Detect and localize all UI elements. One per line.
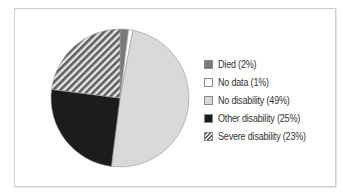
legend-label: Severe disability (23%): [218, 131, 306, 142]
legend-label: No disability (49%): [218, 95, 290, 106]
legend-swatch-no-disability: [204, 96, 213, 105]
legend-swatch-severe-disability: [204, 132, 213, 141]
legend-label: Other disability (25%): [218, 113, 300, 124]
legend-item-no-disability: No disability (49%): [204, 91, 316, 109]
legend-swatch-other-disability: [204, 114, 213, 123]
legend-swatch-died: [204, 60, 213, 69]
legend-item-severe-disability: Severe disability (23%): [204, 127, 316, 145]
legend-item-other-disability: Other disability (25%): [204, 109, 316, 127]
pie-slice-other-disability: [51, 89, 120, 166]
legend-label: No data (1%): [218, 77, 269, 88]
chart-legend: Died (2%) No data (1%) No disability (49…: [204, 55, 316, 145]
legend-item-no-data: No data (1%): [204, 73, 316, 91]
legend-item-died: Died (2%): [204, 55, 316, 73]
pie-slice-severe-disability: [52, 29, 120, 98]
legend-label: Died (2%): [218, 59, 256, 70]
legend-swatch-no-data: [204, 78, 213, 87]
